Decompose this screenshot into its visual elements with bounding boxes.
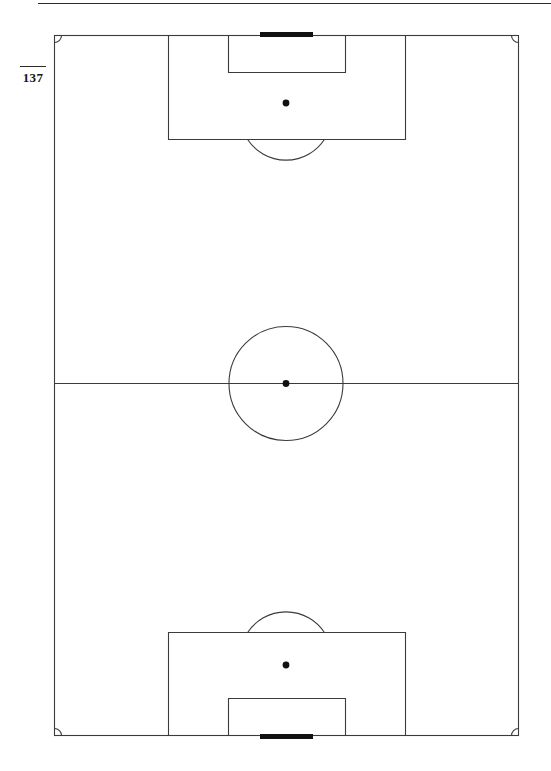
corner-arc-bottom-right [512,729,519,736]
center-spot [283,380,290,387]
goal-bottom [260,734,313,739]
corner-arc-bottom-left [55,729,62,736]
penalty-area-top [169,36,406,140]
penalty-spot-top [283,100,290,107]
goal-area-top [229,36,346,73]
football-pitch-figure [0,0,551,771]
penalty-arc-bottom [248,612,325,633]
penalty-spot-bottom [283,662,290,669]
corner-arc-top-right [512,36,519,43]
goal-area-bottom [229,699,346,736]
penalty-area-bottom [169,633,406,736]
book-page: 137 [0,0,551,771]
corner-arc-top-left [55,36,62,43]
penalty-arc-top [248,140,325,161]
pitch-svg [0,0,551,771]
goal-top [260,32,313,37]
